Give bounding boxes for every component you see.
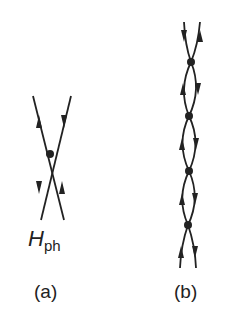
- arrow-down-icon: [193, 138, 199, 150]
- fermion-line-1: [33, 96, 64, 220]
- vertex-dot: [184, 221, 192, 229]
- panel-label-a: (a): [34, 281, 57, 303]
- arrow-down-icon: [192, 193, 198, 205]
- arrow-up-icon: [179, 193, 185, 205]
- panel-label-b: (b): [174, 281, 197, 303]
- arrow-down-icon: [61, 115, 67, 128]
- fermion-line-2: [41, 96, 71, 220]
- arrow-up-icon: [179, 138, 185, 150]
- operator-label: Hph: [28, 226, 61, 254]
- vertex-dot: [185, 167, 193, 175]
- arrow-up-icon: [36, 115, 42, 128]
- operator-symbol: H: [28, 226, 44, 251]
- arrow-down-icon: [192, 246, 198, 258]
- feynman-diagrams: [0, 0, 226, 329]
- vertex-dot: [185, 112, 193, 120]
- arrow-up-icon: [178, 246, 184, 258]
- arrow-down-icon: [36, 181, 42, 194]
- diagram-a: [33, 96, 71, 220]
- vertex-dot: [187, 58, 195, 66]
- operator-subscript: ph: [44, 237, 61, 254]
- vertex-dot: [46, 150, 54, 158]
- arrow-up-icon: [59, 181, 65, 194]
- diagram-b: [178, 22, 203, 268]
